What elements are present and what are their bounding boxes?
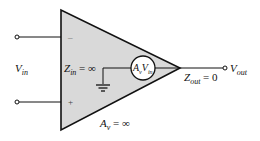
vout-label: Vout [230,63,247,77]
av-label: Av = ∞ [100,118,130,132]
zout-label: Zout = 0 [184,72,218,86]
plus-sign: + [68,98,73,107]
minus-sign: – [68,33,73,42]
source-label: AvVin [133,63,153,75]
zin-label: Zin = ∞ [64,63,96,77]
noninverting-input-terminal [15,100,19,104]
vin-label: Vin [15,63,28,77]
inverting-input-terminal [15,35,19,39]
op-amp-diagram [0,0,260,141]
output-terminal [223,66,227,70]
